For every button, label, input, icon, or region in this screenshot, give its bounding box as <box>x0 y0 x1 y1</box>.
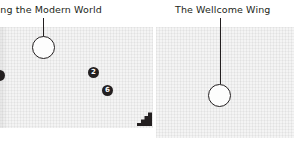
gallery-number-marker-2[interactable]: 2 <box>88 67 99 78</box>
gallery-number-marker-6[interactable]: 6 <box>102 85 113 96</box>
gallery-label-making-the-modern-world: king the Modern World <box>0 4 102 16</box>
leader-line-making-the-modern-world <box>43 18 44 37</box>
gallery-panel-making-the-modern-world[interactable] <box>0 27 153 128</box>
lift-circle-icon-making-the-modern-world[interactable] <box>32 36 55 59</box>
leader-line-the-wellcome-wing <box>220 18 221 84</box>
stairs-icon <box>137 110 152 126</box>
gallery-label-the-wellcome-wing: The Wellcome Wing <box>175 4 270 16</box>
gallery-panel-the-wellcome-wing[interactable] <box>156 27 294 138</box>
museum-floor-map: king the Modern World The Wellcome Wing … <box>0 0 294 162</box>
lift-circle-icon-the-wellcome-wing[interactable] <box>208 84 231 107</box>
